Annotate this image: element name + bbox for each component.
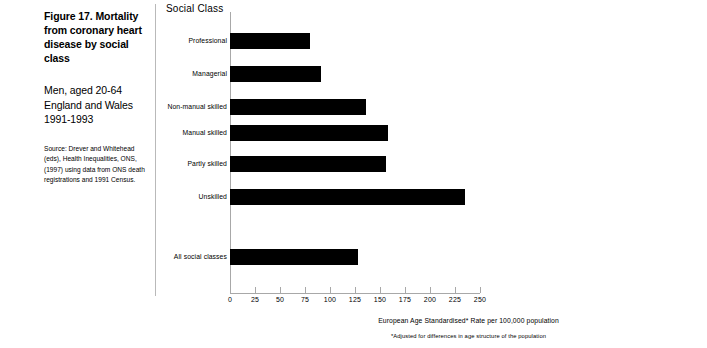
bar-row: Managerial: [166, 66, 706, 82]
x-axis-tick-label: 200: [424, 296, 436, 303]
x-axis-label: European Age Standardised* Rate per 100,…: [230, 317, 707, 324]
x-axis-tick-label: 50: [276, 296, 284, 303]
x-axis-tick: [255, 287, 256, 293]
x-axis-tick-label: 100: [324, 296, 336, 303]
bar-row: Unskilled: [166, 189, 706, 205]
bar-category-label: Unskilled: [97, 193, 227, 201]
x-axis-tick: [330, 287, 331, 293]
x-axis-tick: [455, 287, 456, 293]
x-axis-tick: [280, 287, 281, 293]
x-axis-tick: [230, 287, 231, 293]
bar-row: Partly skilled: [166, 156, 706, 172]
bar-row: Professional: [166, 33, 706, 49]
bar: [230, 99, 366, 115]
x-axis-tick: [480, 287, 481, 293]
x-axis-tick-label: 175: [399, 296, 411, 303]
x-axis-tick: [355, 287, 356, 293]
bar: [230, 189, 465, 205]
bar-category-label: Manual skilled: [97, 129, 227, 137]
bar-category-label: Managerial: [97, 70, 227, 78]
x-axis-tick-label: 0: [228, 296, 232, 303]
bar-category-label: Professional: [97, 37, 227, 45]
x-axis-tick-label: 25: [251, 296, 259, 303]
x-axis-tick-label: 125: [349, 296, 361, 303]
bar: [230, 66, 321, 82]
x-axis-tick: [380, 287, 381, 293]
x-axis-footnote: *Adjusted for differences in age structu…: [230, 333, 707, 339]
bar: [230, 249, 358, 265]
x-axis-tick-label: 150: [374, 296, 386, 303]
bar-row: Manual skilled: [166, 125, 706, 141]
bar-category-label: All social classes: [97, 253, 227, 261]
x-axis-tick: [405, 287, 406, 293]
bar-row: Non-manual skilled: [166, 99, 706, 115]
bar-chart: Social Class ProfessionalManagerialNon-m…: [0, 0, 707, 348]
bar: [230, 125, 388, 141]
x-axis-tick: [430, 287, 431, 293]
x-axis-tick-label: 250: [474, 296, 486, 303]
y-axis-title: Social Class: [166, 3, 223, 14]
x-axis-tick-label: 75: [301, 296, 309, 303]
x-axis-tick-label: 225: [449, 296, 461, 303]
x-axis-line: [230, 293, 480, 294]
bar: [230, 156, 386, 172]
bar: [230, 33, 310, 49]
bar-category-label: Non-manual skilled: [97, 103, 227, 111]
bar-category-label: Partly skilled: [97, 160, 227, 168]
x-axis-tick: [305, 287, 306, 293]
bar-row: All social classes: [166, 249, 706, 265]
